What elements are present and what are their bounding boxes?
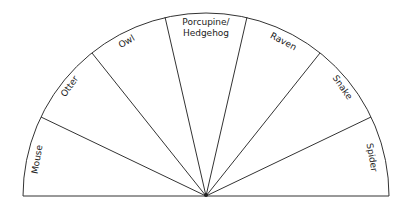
sector-label-raven: Raven bbox=[269, 30, 299, 52]
divider-owl-porcupine bbox=[165, 17, 206, 196]
sector-label-snake: Snake bbox=[331, 73, 355, 102]
sector-label-spider: Spider bbox=[365, 142, 380, 172]
divider-porcupine-raven bbox=[206, 17, 247, 196]
sector-label-otter: Otter bbox=[59, 74, 81, 99]
wheel-outline bbox=[23, 13, 389, 196]
sector-label-owl: Owl bbox=[117, 33, 137, 50]
animal-wheel-diagram: Mouse Otter Owl Porcupine/ Hedgehog Rave… bbox=[0, 0, 408, 208]
sector-label-hedgehog-line2: Hedgehog bbox=[183, 28, 229, 38]
sector-label-mouse: Mouse bbox=[30, 144, 45, 175]
divider-mouse-otter bbox=[41, 117, 206, 196]
semicircle-outline bbox=[23, 13, 389, 196]
divider-snake-spider bbox=[206, 117, 371, 196]
sector-label-porcupine-line1: Porcupine/ bbox=[182, 17, 230, 27]
divider-raven-snake bbox=[206, 53, 320, 196]
center-point bbox=[204, 193, 208, 197]
divider-otter-owl bbox=[92, 53, 206, 196]
sector-labels: Mouse Otter Owl Porcupine/ Hedgehog Rave… bbox=[30, 17, 380, 175]
